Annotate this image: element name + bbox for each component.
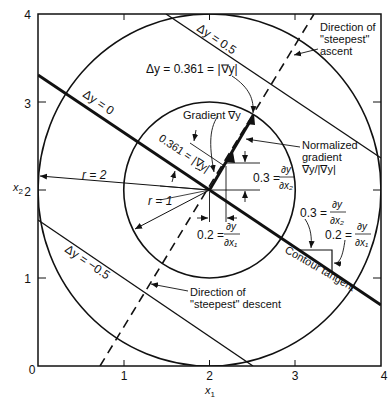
contour-plus-label: Δy = 0.5 xyxy=(194,21,239,58)
circle-point-leader xyxy=(232,76,253,113)
contour-minus-label: Δy = −0.5 xyxy=(62,242,113,283)
descent-label-1: Direction of xyxy=(190,286,247,298)
dx1-tangent-value: 0.2 = xyxy=(325,228,352,242)
ascent-label-3: ascent xyxy=(320,45,352,57)
y-tick-2: 2 xyxy=(24,185,31,199)
normalized-gradient-arrow xyxy=(210,118,253,190)
x-axis-label: x1 xyxy=(204,384,216,399)
ascent-label-2: "steepest" xyxy=(320,33,369,45)
tangent-dx1-leader xyxy=(334,240,345,263)
dx2-center-den: ∂x₂ xyxy=(279,180,293,191)
x-tick-1: 1 xyxy=(121,369,128,383)
normalized-label-2: gradient xyxy=(302,151,342,163)
x-tick-4: 4 xyxy=(381,369,388,383)
dx1-center-den: ∂x₁ xyxy=(224,237,237,248)
dx1-tangent-num: ∂y xyxy=(357,221,368,232)
tangent-dx2-leader xyxy=(305,219,311,248)
ascent-label-1: Direction of xyxy=(320,21,377,33)
dx1-center-value: 0.2 = xyxy=(197,228,224,242)
dx2-tangent-num: ∂y xyxy=(332,199,343,210)
origin-label: 0 xyxy=(29,363,36,377)
y-axis-label: x2 xyxy=(12,181,24,196)
y-tick-4: 4 xyxy=(24,8,31,22)
dx2-tangent-value: 0.3 = xyxy=(300,206,327,220)
dx1-tangent-den: ∂x₁ xyxy=(355,237,368,248)
ascent-leader xyxy=(294,49,318,55)
x-tick-2: 2 xyxy=(206,369,213,383)
descent-leader xyxy=(151,284,188,291)
inner-radius-label: r = 1 xyxy=(148,194,172,208)
gradient-label: Gradient ∇y xyxy=(183,109,241,121)
dx2-tangent-den: ∂x₂ xyxy=(330,215,344,226)
dx2-center-value: 0.3 = xyxy=(253,171,280,185)
contour-zero-label: Δy = 0 xyxy=(80,87,117,118)
normalized-gradient-arrowhead xyxy=(246,114,255,125)
dx2-center-num: ∂y xyxy=(281,164,292,175)
normalized-label-1: Normalized xyxy=(302,139,358,151)
normalized-label-3: ∇y/|∇y| xyxy=(301,163,336,175)
grad-magnitude-label: 0.361 = |∇y| xyxy=(157,132,212,175)
contour-tangent-label: Contour tangent xyxy=(283,243,357,293)
circle-point-label: Δy = 0.361 = |∇y| xyxy=(146,62,238,76)
outer-radius-label: r = 2 xyxy=(82,168,107,182)
normalized-leader xyxy=(246,139,300,147)
descent-label-2: "steepest" descent xyxy=(190,298,281,310)
gradient-diagram: 0 1 2 3 4 1 2 3 4 x1 x2 Δy = 0 Δy = 0.5 … xyxy=(0,0,392,405)
y-tick-1: 1 xyxy=(24,272,31,286)
dx1-center-num: ∂y xyxy=(226,221,237,232)
y-tick-3: 3 xyxy=(24,97,31,111)
x-tick-3: 3 xyxy=(292,369,299,383)
